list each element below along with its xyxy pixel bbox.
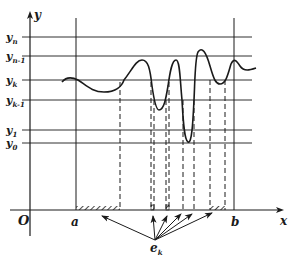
label-yk-1: yk-1 [5,94,25,109]
arrow-to-interval-3 [155,216,167,240]
hatched-interval-1 [76,206,120,210]
label-yn-1: yn-1 [5,50,25,65]
bound-label-a: a [71,215,79,229]
ek-label: ek [150,241,163,257]
y-axis-label: y [33,8,42,22]
level-labels: yn yn-1 yk yk-1 y1 y0 [5,31,25,152]
projection-lines [120,80,225,210]
arrow-to-interval-5 [155,214,192,240]
bound-label-b: b [231,215,239,229]
label-yn: yn [5,31,18,46]
label-yk: yk [5,74,17,89]
lebesgue-diagram: y x O yn yn-1 yk yk-1 y1 y0 a b [0,0,290,261]
arrow-to-interval-6 [155,213,212,240]
ek-arrows [102,213,212,240]
hatched-interval-3 [166,205,169,210]
hatched-interval-2 [151,205,154,210]
arrow-to-interval-1 [102,216,155,240]
origin-label: O [18,213,30,228]
arrow-to-interval-4 [155,214,181,240]
x-axis: x O [10,207,288,228]
hatched-interval-4 [210,206,225,210]
function-curve [62,50,256,142]
x-axis-label: x [279,214,288,228]
level-lines [22,37,252,143]
y-axis: y [27,8,42,236]
arrow-to-interval-2 [153,216,155,240]
label-y0: y0 [5,137,17,152]
